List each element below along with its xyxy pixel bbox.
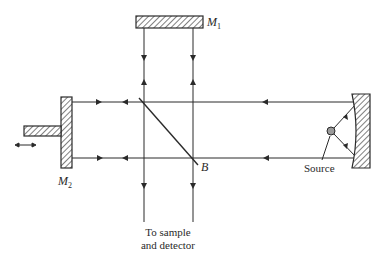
arrow-right-icon (96, 99, 102, 105)
light-source-icon (327, 127, 335, 135)
arrow-down-icon (190, 55, 196, 61)
arrow-left-icon (263, 155, 269, 161)
curved-mirror (352, 94, 370, 168)
arrow-up-icon (141, 79, 147, 85)
arrow-right-icon (97, 155, 103, 161)
arrow-left-icon (122, 99, 128, 105)
double-arrow-icon (15, 143, 36, 147)
label-output-line1: To sample (145, 226, 190, 238)
label-m1: M1 (206, 15, 221, 31)
label-m2: M2 (57, 174, 72, 190)
arrow-down-icon (190, 183, 196, 189)
label-output-line2: and detector (141, 239, 195, 251)
arrow-up-icon (190, 79, 196, 85)
beamsplitter (139, 98, 198, 165)
label-source: Source (304, 162, 335, 174)
source-leader (322, 136, 330, 160)
interferometer-diagram: M1 M2 B Source To sample and detector (0, 0, 385, 263)
arrow-down-icon (141, 183, 147, 189)
label-beamsplitter: B (201, 160, 209, 174)
mirror-m1 (136, 16, 203, 28)
mirror-m2-stem (24, 126, 61, 136)
arrow-left-icon (262, 99, 268, 105)
mirror-m2 (61, 97, 72, 168)
arrow-left-icon (122, 155, 128, 161)
arrow-down-icon (141, 55, 147, 61)
